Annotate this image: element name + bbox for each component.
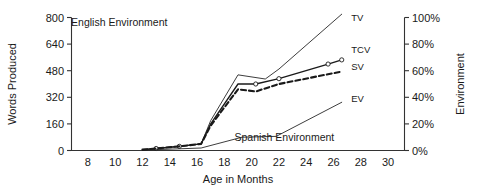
series-label-EV: EV: [351, 93, 364, 104]
x-axis-tick-label: 22: [273, 156, 285, 168]
y-axis-right-tick-label: 0%: [412, 145, 428, 157]
series-label-TV: TV: [351, 12, 364, 23]
series-line-EV: [142, 102, 341, 150]
y-axis-right-title: Environment: [454, 53, 466, 115]
y-axis-left-tick-label: 160: [46, 118, 64, 130]
y-axis-right-tick-label: 100%: [412, 12, 440, 24]
y-axis-right-tick-label: 80%: [412, 38, 434, 50]
series-marker-TCV: [340, 58, 344, 62]
x-axis-tick-label: 30: [382, 156, 394, 168]
y-axis-left-tick-label: 800: [46, 12, 64, 24]
x-axis-tick-label: 12: [136, 156, 148, 168]
chart-container: 01603204806408000%20%40%60%80%100%810121…: [0, 0, 478, 196]
x-axis-tick-label: 26: [327, 156, 339, 168]
series-marker-TCV: [254, 82, 258, 86]
y-axis-left-tick-label: 320: [46, 91, 64, 103]
y-axis-left-title: Words Produced: [6, 43, 18, 125]
series-label-TCV: TCV: [351, 44, 371, 55]
series-marker-TCV: [326, 62, 330, 66]
x-axis-tick-label: 24: [300, 156, 312, 168]
series-line-TV: [142, 14, 341, 149]
x-axis-tick-label: 8: [85, 156, 91, 168]
x-axis-title: Age in Months: [203, 173, 274, 185]
x-axis-tick-label: 10: [109, 156, 121, 168]
line-chart: 01603204806408000%20%40%60%80%100%810121…: [0, 0, 478, 196]
spanish-environment-annotation: Spanish Environment: [234, 131, 334, 143]
series-label-SV: SV: [351, 61, 364, 72]
x-axis-tick-label: 16: [191, 156, 203, 168]
y-axis-left-tick-label: 640: [46, 38, 64, 50]
series-marker-TCV: [277, 77, 281, 81]
x-axis-tick-label: 20: [246, 156, 258, 168]
y-axis-right-tick-label: 20%: [412, 118, 434, 130]
x-axis-tick-label: 14: [164, 156, 176, 168]
y-axis-left-tick-label: 0: [58, 145, 64, 157]
x-axis-tick-label: 28: [355, 156, 367, 168]
english-environment-annotation: English Environment: [71, 16, 167, 28]
y-axis-left-tick-label: 480: [46, 65, 64, 77]
y-axis-right-tick-label: 40%: [412, 91, 434, 103]
x-axis-tick-label: 18: [218, 156, 230, 168]
y-axis-right-tick-label: 60%: [412, 65, 434, 77]
